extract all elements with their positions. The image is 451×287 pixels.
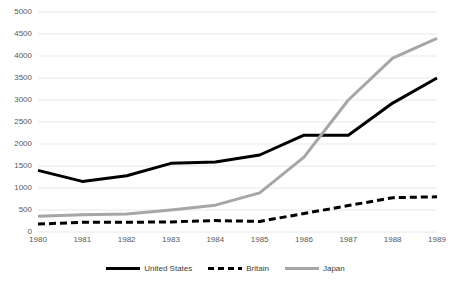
legend-item-label: Japan — [323, 264, 345, 273]
y-axis-tick-label: 2000 — [2, 139, 32, 148]
x-axis-tick-label: 1986 — [284, 235, 324, 244]
solid-gray-line-swatch — [285, 264, 319, 273]
series-lines — [38, 38, 437, 224]
legend-item-britain[interactable]: Britain — [208, 264, 269, 273]
y-axis-tick-label: 4000 — [2, 51, 32, 60]
y-axis-tick-label: 1000 — [2, 183, 32, 192]
y-axis-tick-label: 5000 — [2, 7, 32, 16]
x-axis-tick-label: 1984 — [195, 235, 235, 244]
x-axis-tick-label: 1982 — [107, 235, 147, 244]
y-axis-tick-label: 3500 — [2, 73, 32, 82]
y-axis-tick-label: 4500 — [2, 29, 32, 38]
legend-item-label: United States — [144, 264, 192, 273]
legend-item-label: Britain — [246, 264, 269, 273]
dashed-black-line-swatch — [208, 264, 242, 273]
x-axis-tick-label: 1989 — [417, 235, 451, 244]
legend-item-united-states[interactable]: United States — [106, 264, 192, 273]
y-axis-tick-label: 2500 — [2, 117, 32, 126]
x-axis-tick-label: 1985 — [240, 235, 280, 244]
line-chart: 5000450040003500300025002000150010005000… — [0, 0, 451, 287]
x-axis-tick-label: 1980 — [18, 235, 58, 244]
solid-black-line-swatch — [106, 264, 140, 273]
x-axis-tick-label: 1987 — [328, 235, 368, 244]
series-line-japan — [38, 38, 437, 216]
legend-item-japan[interactable]: Japan — [285, 264, 345, 273]
chart-legend: United StatesBritainJapan — [0, 264, 451, 273]
y-axis-tick-label: 500 — [2, 205, 32, 214]
y-axis-tick-label: 1500 — [2, 161, 32, 170]
x-axis-tick-label: 1983 — [151, 235, 191, 244]
x-axis-tick-label: 1981 — [62, 235, 102, 244]
x-axis-tick-label: 1988 — [373, 235, 413, 244]
y-axis-tick-label: 3000 — [2, 95, 32, 104]
